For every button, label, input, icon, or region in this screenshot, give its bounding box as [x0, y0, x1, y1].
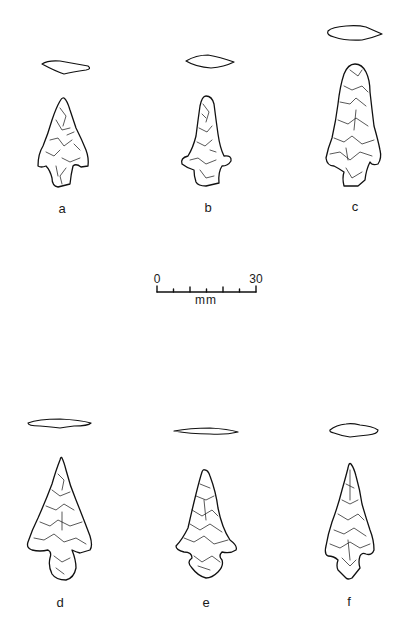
- cross-section-c: [328, 26, 382, 41]
- specimen-c: [326, 26, 382, 186]
- flake-scars-c: [326, 64, 381, 186]
- cross-section-e: [174, 428, 238, 434]
- flake-scars-d: [28, 457, 92, 580]
- cross-section-a: [42, 61, 90, 74]
- flake-scars-b: [182, 96, 232, 186]
- scale-bar-unit: mm: [195, 294, 217, 306]
- specimen-b: [182, 55, 234, 186]
- specimen-f: [325, 424, 378, 579]
- cross-section-f: [330, 424, 378, 437]
- specimen-label-a: a: [58, 202, 65, 215]
- specimen-e: [174, 428, 238, 578]
- scale-bar-max-label: 30: [249, 273, 262, 285]
- flake-scars-a: [38, 98, 88, 187]
- scale-bar-min-label: 0: [154, 273, 161, 285]
- cross-section-d: [28, 419, 91, 428]
- specimen-label-d: d: [56, 596, 63, 609]
- specimen-label-b: b: [204, 201, 211, 214]
- specimen-label-c: c: [352, 200, 359, 213]
- cross-section-b: [186, 55, 234, 68]
- scale-bar: [157, 286, 256, 292]
- specimen-a: [38, 61, 90, 187]
- flake-scars-e: [176, 470, 236, 578]
- flake-scars-f: [325, 464, 374, 580]
- specimen-label-e: e: [202, 596, 209, 609]
- specimen-d: [28, 419, 92, 580]
- specimen-label-f: f: [347, 595, 351, 608]
- illustration-canvas: [0, 0, 403, 636]
